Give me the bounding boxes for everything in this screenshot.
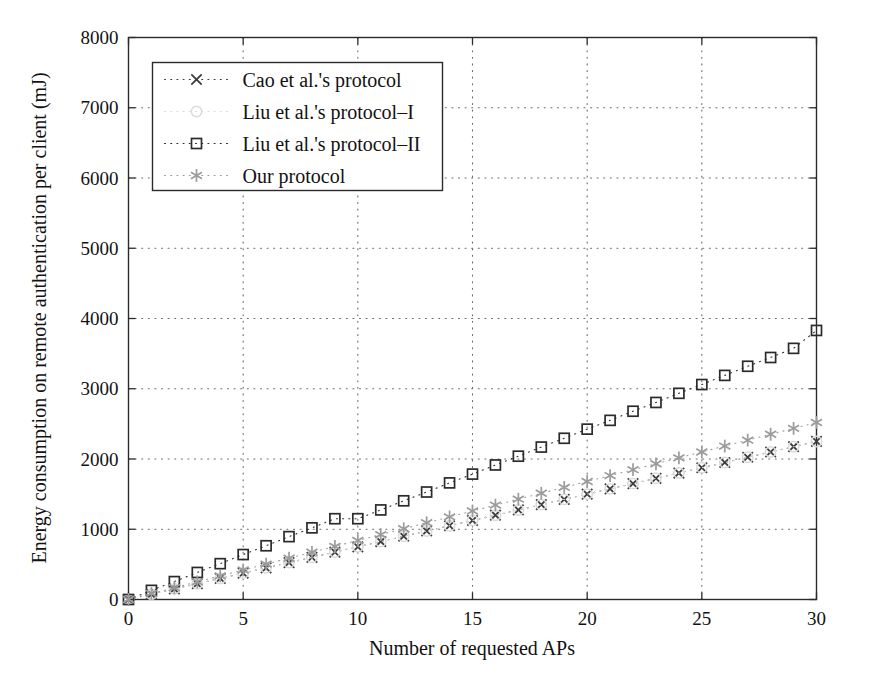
x-tick-label: 20 (578, 608, 597, 629)
legend-label: Cao et al.'s protocol (243, 69, 403, 92)
chart-svg: 0100020003000400050006000700080000510152… (0, 0, 872, 688)
x-tick-label: 0 (124, 608, 134, 629)
x-tick-label: 5 (238, 608, 248, 629)
x-axis-title: Number of requested APs (369, 637, 575, 660)
y-tick-label: 0 (109, 589, 119, 610)
y-tick-label: 4000 (81, 308, 119, 329)
y-tick-label: 5000 (81, 238, 119, 259)
y-tick-label: 3000 (81, 378, 119, 399)
chart-figure: 0100020003000400050006000700080000510152… (0, 0, 872, 688)
x-tick-label: 25 (692, 608, 711, 629)
x-tick-label: 15 (463, 608, 482, 629)
y-tick-label: 2000 (81, 449, 119, 470)
x-tick-label: 30 (807, 608, 826, 629)
chart-legend: Cao et al.'s protocolLiu et al.'s protoc… (153, 63, 443, 191)
legend-label: Liu et al.'s protocol–I (243, 101, 414, 124)
legend-label: Our protocol (243, 165, 346, 188)
y-tick-label: 8000 (81, 27, 119, 48)
y-tick-label: 7000 (81, 97, 119, 118)
y-axis-title: Energy consumption on remote authenticat… (28, 72, 51, 563)
legend-label: Liu et al.'s protocol–II (243, 133, 421, 156)
y-tick-label: 6000 (81, 168, 119, 189)
y-tick-label: 1000 (81, 519, 119, 540)
x-tick-label: 10 (348, 608, 367, 629)
